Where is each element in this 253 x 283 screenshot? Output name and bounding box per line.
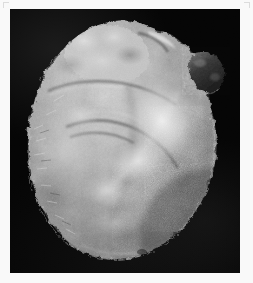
heart-specimen-svg: [10, 9, 240, 273]
figure-root: [0, 0, 253, 283]
photo-plate: [10, 9, 240, 273]
plate-corner-tick-top-left: [3, 2, 9, 8]
plate-corner-tick-top-right: [244, 2, 250, 8]
specimen-image: [10, 9, 240, 273]
film-grain: [10, 9, 240, 273]
